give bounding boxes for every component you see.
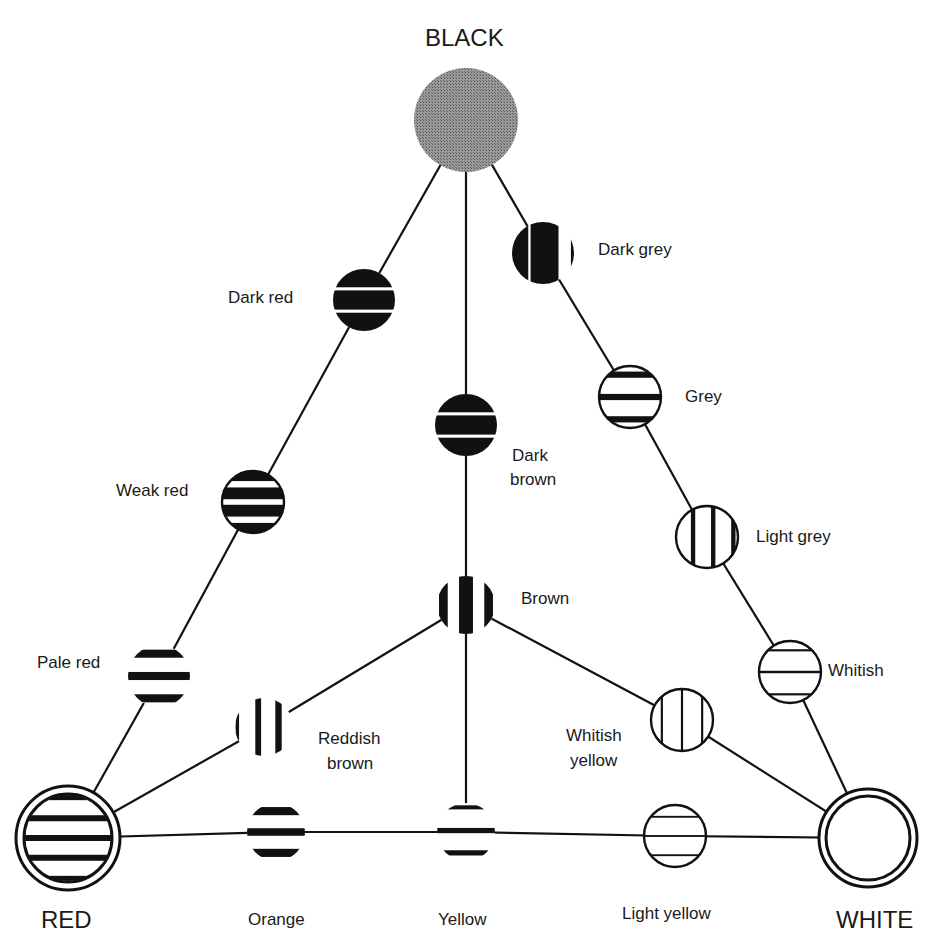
label-dark-grey: Dark grey bbox=[598, 240, 672, 260]
node-grey bbox=[599, 366, 661, 428]
label-reddish-brown-line1: Reddish bbox=[318, 729, 380, 749]
label-light-yellow: Light yellow bbox=[622, 904, 711, 924]
corner-white bbox=[819, 789, 917, 887]
node-dark-grey bbox=[511, 222, 574, 284]
node-light-yellow bbox=[644, 805, 706, 867]
node-dark-red bbox=[333, 268, 395, 332]
node-weak-red bbox=[222, 470, 284, 534]
node-yellow bbox=[437, 803, 495, 861]
label-yellow: Yellow bbox=[438, 910, 487, 930]
label-white: WHITE bbox=[836, 906, 913, 934]
label-whitish: Whitish bbox=[828, 661, 884, 681]
node-brown bbox=[437, 576, 495, 634]
node-whitish bbox=[759, 641, 821, 703]
label-black: BLACK bbox=[425, 24, 504, 52]
node-reddish-brown bbox=[235, 698, 293, 756]
label-dark-brown-line1: Dark bbox=[512, 446, 548, 466]
label-red: RED bbox=[41, 906, 92, 934]
label-dark-red: Dark red bbox=[228, 288, 293, 308]
label-grey: Grey bbox=[685, 387, 722, 407]
edge-lines bbox=[68, 120, 868, 838]
label-pale-red: Pale red bbox=[37, 653, 100, 673]
label-dark-brown-line2: brown bbox=[510, 470, 556, 490]
color-triangle-diagram: BLACK RED WHITE Dark red Weak red Pale r… bbox=[0, 0, 942, 952]
node-orange bbox=[247, 803, 305, 861]
edge-brown-whitish-yellow bbox=[466, 605, 682, 720]
node-whitish-yellow bbox=[651, 689, 713, 751]
label-brown: Brown bbox=[521, 589, 569, 609]
corner-red bbox=[16, 786, 120, 890]
edge-reddish-brown-brown bbox=[264, 605, 466, 727]
label-orange: Orange bbox=[248, 910, 305, 930]
edge-dark-red-weak-red bbox=[253, 300, 364, 502]
label-weak-red: Weak red bbox=[116, 481, 188, 501]
corner-black bbox=[414, 68, 518, 172]
node-light-grey bbox=[676, 506, 738, 568]
node-pale-red bbox=[128, 645, 190, 707]
diagram-canvas bbox=[0, 0, 942, 952]
label-light-grey: Light grey bbox=[756, 527, 831, 547]
label-reddish-brown-line2: brown bbox=[327, 754, 373, 774]
node-dark-brown bbox=[435, 393, 497, 457]
label-whitish-yellow-line2: yellow bbox=[570, 751, 617, 771]
label-whitish-yellow-line1: Whitish bbox=[566, 726, 622, 746]
